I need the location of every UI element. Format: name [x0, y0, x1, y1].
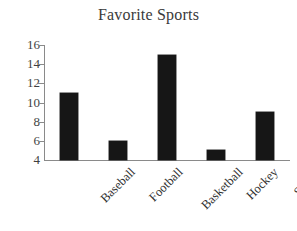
- chart-title: Favorite Sports: [0, 6, 297, 24]
- y-axis-tick-mark-14: [38, 64, 44, 65]
- bar-hockey: [207, 150, 225, 160]
- y-axis-tick-label-8: 8: [0, 114, 40, 130]
- y-axis-tick-label-4: 4: [0, 152, 40, 168]
- bar-basketball: [158, 55, 176, 160]
- x-axis-label-hockey: Hockey: [244, 165, 282, 203]
- y-axis-line: [44, 45, 45, 161]
- y-axis-tick-label-14: 14: [0, 56, 40, 72]
- x-axis-label-football: Football: [146, 165, 186, 205]
- bar-chart-figure: Favorite Sports 16141210864 BaseballFoot…: [0, 0, 297, 231]
- x-axis-line: [44, 160, 290, 161]
- bar-baseball: [60, 93, 78, 160]
- y-axis-tick-mark-16: [38, 45, 44, 46]
- y-axis-tick-label-10: 10: [0, 95, 40, 111]
- y-axis-tick-mark-6: [38, 141, 44, 142]
- y-axis-tick-mark-12: [38, 83, 44, 84]
- bar-soccer: [256, 112, 274, 160]
- y-axis-tick-label-12: 12: [0, 75, 40, 91]
- y-axis-tick-mark-10: [38, 103, 44, 104]
- y-axis-tick-label-6: 6: [0, 133, 40, 149]
- x-axis-label-soccer: Soccer: [291, 165, 297, 200]
- x-axis-label-baseball: Baseball: [97, 165, 138, 206]
- y-axis-tick-label-16: 16: [0, 37, 40, 53]
- y-axis-tick-mark-8: [38, 122, 44, 123]
- bar-football: [109, 141, 127, 160]
- x-axis-label-basketball: Basketball: [198, 165, 246, 213]
